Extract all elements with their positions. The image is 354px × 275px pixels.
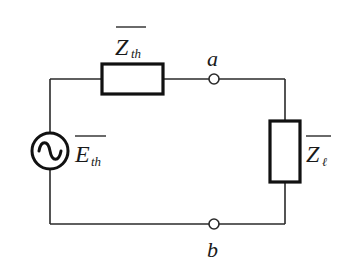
label-z-load-main: Z [306, 141, 320, 167]
circuit-svg: Z th a b E th Z ℓ [0, 0, 354, 275]
terminal-b-node [209, 219, 219, 229]
label-e-th: E th [74, 136, 106, 169]
label-z-th: Z th [115, 27, 146, 61]
thevenin-impedance-box [102, 64, 163, 94]
label-z-th-sub: th [131, 46, 141, 61]
label-e-th-sub: th [91, 154, 101, 169]
load-impedance-box [270, 121, 300, 182]
terminal-a-label: a [207, 46, 218, 71]
terminal-a-node [209, 74, 219, 84]
ac-voltage-source [32, 133, 68, 169]
label-z-load-sub: ℓ [322, 155, 327, 169]
terminal-b-label: b [207, 237, 218, 262]
label-z-load: Z ℓ [306, 136, 331, 169]
label-e-th-main: E [74, 141, 90, 167]
circuit-diagram: Z th a b E th Z ℓ [0, 0, 354, 275]
label-z-th-main: Z [115, 34, 129, 60]
